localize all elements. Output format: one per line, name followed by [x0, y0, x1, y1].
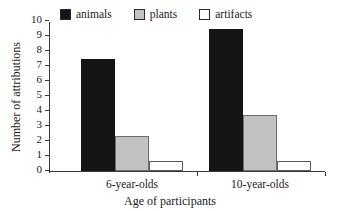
chart-legend: animals plants artifacts: [60, 9, 252, 20]
legend-label-animals: animals: [76, 9, 112, 20]
bar-chart-figure: animals plants artifacts 012345678910 Nu…: [0, 0, 340, 211]
y-tick-8: 8: [45, 50, 49, 51]
y-tick-2: 2: [45, 140, 49, 141]
y-tick-label-4: 4: [37, 103, 43, 116]
x-axis-line: [49, 171, 325, 172]
y-tick-label-2: 2: [37, 133, 43, 146]
y-tick-6: 6: [45, 80, 49, 81]
y-tick-4: 4: [45, 110, 49, 111]
bar-plants-10-year-olds: [243, 115, 277, 171]
y-tick-7: 7: [45, 65, 49, 66]
x-category-label-6-year-olds: 6-year-olds: [106, 178, 158, 191]
y-tick-0: 0: [45, 170, 49, 171]
y-tick-9: 9: [45, 35, 49, 36]
legend-label-artifacts: artifacts: [215, 9, 252, 20]
x-tick-1: [325, 172, 326, 176]
x-axis-title: Age of participants: [0, 194, 340, 208]
bar-artifacts-6-year-olds: [149, 161, 183, 172]
y-tick-label-10: 10: [31, 13, 42, 26]
y-axis-title: Number of attributions: [8, 22, 24, 172]
bar-artifacts-10-year-olds: [277, 161, 311, 171]
x-category-label-10-year-olds: 10-year-olds: [231, 178, 289, 191]
legend-entry-artifacts: artifacts: [199, 9, 252, 20]
bar-animals-10-year-olds: [209, 29, 243, 172]
y-tick-label-8: 8: [37, 43, 43, 56]
legend-swatch-artifacts-icon: [199, 9, 210, 20]
y-tick-label-3: 3: [37, 118, 43, 131]
legend-label-plants: plants: [150, 9, 177, 20]
y-tick-label-5: 5: [37, 88, 43, 101]
y-tick-3: 3: [45, 125, 49, 126]
y-tick-label-7: 7: [37, 58, 43, 71]
y-tick-10: 10: [45, 20, 49, 21]
y-tick-5: 5: [45, 95, 49, 96]
plot-area: 012345678910: [49, 22, 325, 172]
y-tick-label-9: 9: [37, 28, 43, 41]
legend-entry-animals: animals: [60, 9, 112, 20]
y-tick-label-1: 1: [37, 148, 43, 161]
y-tick-label-6: 6: [37, 73, 43, 86]
y-tick-1: 1: [45, 155, 49, 156]
legend-entry-plants: plants: [134, 9, 177, 20]
y-axis-line: [49, 22, 50, 173]
legend-swatch-plants-icon: [134, 9, 145, 20]
bar-plants-6-year-olds: [115, 136, 149, 171]
x-tick-0: [197, 172, 198, 176]
bar-animals-6-year-olds: [81, 59, 115, 172]
legend-swatch-animals-icon: [60, 9, 71, 20]
y-tick-label-0: 0: [37, 163, 43, 176]
